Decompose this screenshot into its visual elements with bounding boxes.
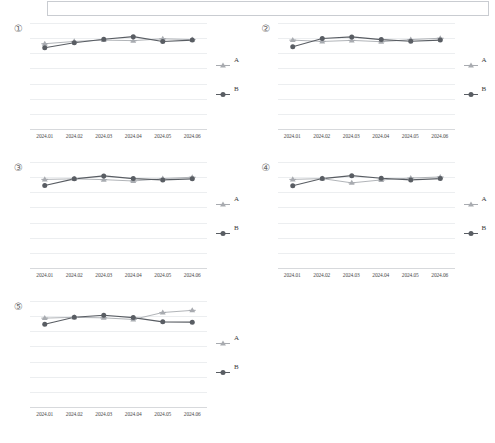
chart-legend: AB xyxy=(216,195,239,233)
x-axis-tick-label: 2024.06 xyxy=(178,411,208,417)
x-axis-tick-label: 2024.03 xyxy=(89,133,119,139)
x-axis-tick-label: 2024.03 xyxy=(89,411,119,417)
legend-item-a[interactable]: A xyxy=(464,56,487,65)
x-axis-tick-label: 2024.05 xyxy=(396,272,426,278)
chart-cell-5: ⑤2024.012024.022024.032024.042024.052024… xyxy=(0,296,248,435)
legend-label: B xyxy=(234,85,239,94)
x-axis-tick-label: 2024.05 xyxy=(148,272,178,278)
x-axis-tick-label: 2024.06 xyxy=(178,133,208,139)
chart-cell-1: ①2024.012024.022024.032024.042024.052024… xyxy=(0,18,248,157)
plot-area xyxy=(30,162,207,269)
data-point-marker-a xyxy=(348,180,355,185)
legend-item-b[interactable]: B xyxy=(464,224,487,233)
data-point-marker-b xyxy=(160,39,165,44)
legend-label: B xyxy=(234,224,239,233)
x-axis-tick-label: 2024.01 xyxy=(278,272,308,278)
chart-row-2: ③2024.012024.022024.032024.042024.052024… xyxy=(0,157,495,296)
series-layer xyxy=(278,162,455,269)
series-line-b xyxy=(292,176,440,186)
series-line-b xyxy=(292,37,440,47)
x-axis-tick-label: 2024.06 xyxy=(178,272,208,278)
x-axis-tick-label: 2024.06 xyxy=(425,133,455,139)
data-point-marker-b xyxy=(101,37,106,42)
chart-legend: AB xyxy=(464,56,487,94)
x-axis-labels: 2024.012024.022024.032024.042024.052024.… xyxy=(278,272,455,278)
x-axis-tick-label: 2024.04 xyxy=(366,133,396,139)
legend-item-b[interactable]: B xyxy=(216,363,239,372)
legend-label: B xyxy=(482,224,487,233)
x-axis-tick-label: 2024.02 xyxy=(307,272,337,278)
x-axis-tick-label: 2024.01 xyxy=(278,133,308,139)
legend-marker-b-icon xyxy=(216,363,230,372)
plot-area xyxy=(30,23,207,130)
line-chart-1: ①2024.012024.022024.032024.042024.052024… xyxy=(0,18,248,157)
chart-grid: ①2024.012024.022024.032024.042024.052024… xyxy=(0,18,495,435)
chart-row-1: ①2024.012024.022024.032024.042024.052024… xyxy=(0,18,495,157)
plot-area xyxy=(278,23,455,130)
data-point-marker-b xyxy=(437,38,442,43)
x-axis-labels: 2024.012024.022024.032024.042024.052024.… xyxy=(30,411,207,417)
data-point-marker-b xyxy=(42,45,47,50)
chart-cell-empty xyxy=(248,296,495,435)
data-point-marker-b xyxy=(290,183,295,188)
chart-index-badge: ① xyxy=(12,22,25,35)
legend-label: A xyxy=(234,195,239,204)
series-layer xyxy=(30,301,207,408)
data-point-marker-a xyxy=(41,315,48,320)
legend-item-b[interactable]: B xyxy=(216,224,239,233)
legend-item-b[interactable]: B xyxy=(464,85,487,94)
data-point-marker-b xyxy=(190,320,195,325)
data-point-marker-a xyxy=(41,41,48,46)
legend-label: B xyxy=(234,363,239,372)
data-point-marker-b xyxy=(468,231,473,236)
data-point-marker-a xyxy=(220,340,227,345)
x-axis-tick-label: 2024.02 xyxy=(60,272,90,278)
data-point-marker-b xyxy=(221,92,226,97)
series-layer xyxy=(30,162,207,269)
legend-marker-b-icon xyxy=(464,85,478,94)
legend-label: A xyxy=(482,195,487,204)
data-point-marker-a xyxy=(220,62,227,67)
data-point-marker-b xyxy=(349,34,354,39)
chart-index-badge: ③ xyxy=(12,161,25,174)
plot-area xyxy=(278,162,455,269)
legend-label: A xyxy=(482,56,487,65)
chart-page: ①2024.012024.022024.032024.042024.052024… xyxy=(0,0,495,443)
line-chart-5: ⑤2024.012024.022024.032024.042024.052024… xyxy=(0,296,248,435)
chart-index-badge: ⑤ xyxy=(12,300,25,313)
legend-item-b[interactable]: B xyxy=(216,85,239,94)
chart-cell-4: ④2024.012024.022024.032024.042024.052024… xyxy=(248,157,495,296)
x-axis-labels: 2024.012024.022024.032024.042024.052024.… xyxy=(30,272,207,278)
legend-item-a[interactable]: A xyxy=(216,334,239,343)
x-axis-tick-label: 2024.04 xyxy=(119,133,149,139)
x-axis-tick-label: 2024.04 xyxy=(119,272,149,278)
data-point-marker-b xyxy=(408,39,413,44)
data-point-marker-b xyxy=(72,176,77,181)
data-point-marker-b xyxy=(101,313,106,318)
x-axis-tick-label: 2024.02 xyxy=(60,133,90,139)
legend-label: B xyxy=(482,85,487,94)
data-point-marker-a xyxy=(467,201,474,206)
legend-marker-a-icon xyxy=(464,195,478,204)
data-point-marker-b xyxy=(221,231,226,236)
x-axis-tick-label: 2024.05 xyxy=(148,411,178,417)
data-point-marker-b xyxy=(349,173,354,178)
chart-index-badge: ④ xyxy=(260,161,273,174)
legend-item-a[interactable]: A xyxy=(464,195,487,204)
data-point-marker-b xyxy=(408,177,413,182)
data-point-marker-a xyxy=(41,176,48,181)
legend-marker-b-icon xyxy=(216,85,230,94)
x-axis-labels: 2024.012024.022024.032024.042024.052024.… xyxy=(278,133,455,139)
data-point-marker-b xyxy=(221,370,226,375)
line-chart-2: ②2024.012024.022024.032024.042024.052024… xyxy=(248,18,495,157)
empty-bordered-panel xyxy=(47,1,489,16)
data-point-marker-b xyxy=(42,183,47,188)
data-point-marker-b xyxy=(42,322,47,327)
data-point-marker-b xyxy=(101,173,106,178)
legend-item-a[interactable]: A xyxy=(216,56,239,65)
data-point-marker-b xyxy=(378,176,383,181)
legend-item-a[interactable]: A xyxy=(216,195,239,204)
data-point-marker-b xyxy=(160,177,165,182)
legend-label: A xyxy=(234,56,239,65)
series-layer xyxy=(30,23,207,130)
